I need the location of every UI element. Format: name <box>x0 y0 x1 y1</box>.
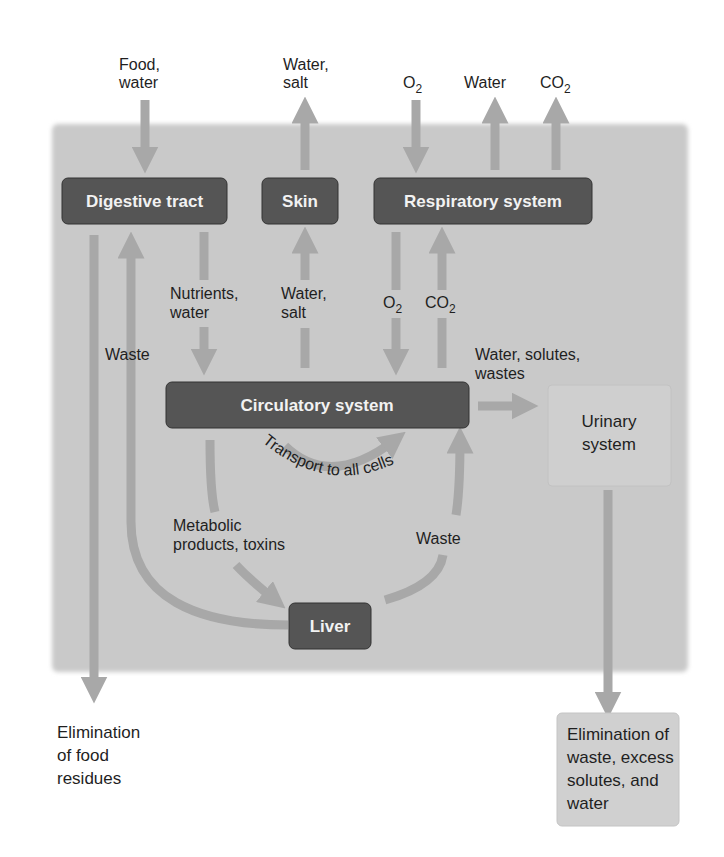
skin-water-label-line2: salt <box>281 304 306 321</box>
waste-liver-label: Waste <box>416 530 461 547</box>
urinary-label-line1: Urinary <box>582 412 637 431</box>
node-liver: Liver <box>289 603 371 649</box>
node-elimination-food: Elimination of food residues <box>57 723 140 788</box>
elim-waste-line4: water <box>566 794 609 813</box>
liver-label: Liver <box>310 617 351 636</box>
to-urinary-label-line1: Water, solutes, <box>475 346 580 363</box>
node-respiratory-system: Respiratory system <box>374 178 592 224</box>
organ-systems-diagram: Digestive tract Skin Respiratory system … <box>0 0 724 857</box>
skin-out-label-line1: Water, <box>283 56 329 73</box>
node-circulatory-system: Circulatory system <box>166 382 469 428</box>
node-digestive-tract: Digestive tract <box>62 178 227 224</box>
metabolic-label-line1: Metabolic <box>173 517 241 534</box>
water-top-label: Water <box>464 74 507 91</box>
metabolic-label-line2: products, toxins <box>173 536 285 553</box>
node-skin: Skin <box>262 178 338 224</box>
waste-left-label: Waste <box>105 346 150 363</box>
urinary-label-line2: system <box>582 435 636 454</box>
elim-waste-line3: solutes, and <box>567 771 659 790</box>
liver-waste-arrow <box>456 440 460 515</box>
circulatory-label: Circulatory system <box>240 396 393 415</box>
nutrients-label-line2: water <box>169 304 210 321</box>
to-urinary-label-line2: wastes <box>474 365 525 382</box>
skin-label: Skin <box>282 192 318 211</box>
elim-waste-line1: Elimination of <box>567 725 669 744</box>
node-elimination-waste: Elimination of waste, excess solutes, an… <box>557 713 679 826</box>
food-label-line2: water <box>118 74 159 91</box>
node-urinary-system: Urinary system <box>548 385 671 486</box>
co2-top-label: CO2 <box>540 74 571 96</box>
food-label-line1: Food, <box>119 56 160 73</box>
respiratory-label: Respiratory system <box>404 192 562 211</box>
elim-food-line2: of food <box>57 746 109 765</box>
o2-top-label: O2 <box>403 74 422 96</box>
elim-food-line3: residues <box>57 769 121 788</box>
skin-out-label-line2: salt <box>283 74 308 91</box>
elim-waste-line2: waste, excess <box>566 748 674 767</box>
skin-water-label-line1: Water, <box>281 285 327 302</box>
elim-food-line1: Elimination <box>57 723 140 742</box>
nutrients-label-line1: Nutrients, <box>170 285 238 302</box>
digestive-label: Digestive tract <box>86 192 203 211</box>
